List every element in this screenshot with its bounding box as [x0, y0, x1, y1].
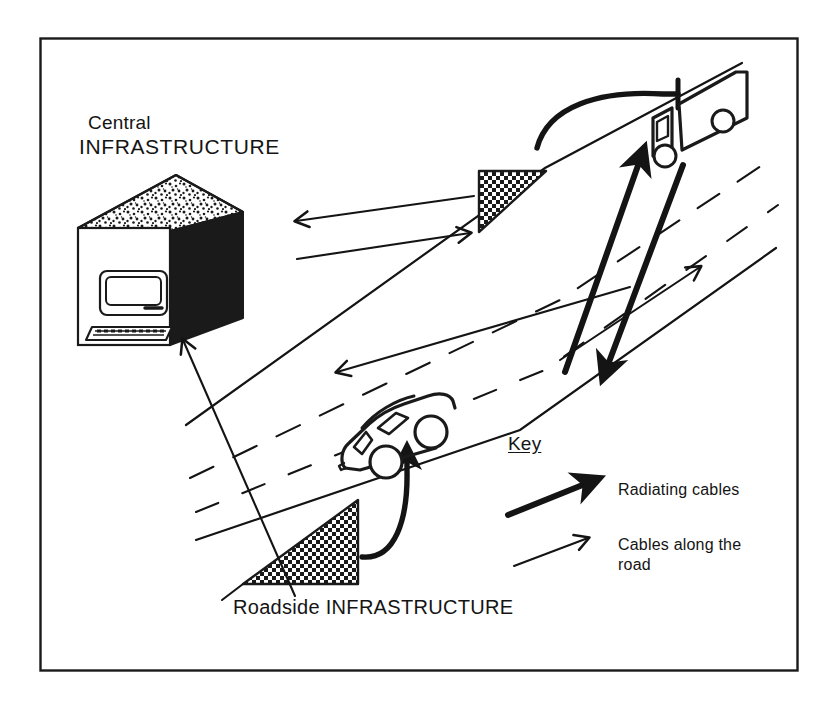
label-central-infrastructure-line1: Central	[88, 112, 151, 134]
car-rear-wheel	[415, 416, 447, 448]
lorry-front-wheel	[654, 145, 676, 167]
car-front-wheel	[370, 446, 402, 478]
key-label-radiating-cables: Radiating cables	[618, 481, 740, 499]
label-roadside-infrastructure: Roadside INFRASTRUCTURE	[233, 596, 513, 619]
lorry-rear-wheel	[712, 110, 734, 132]
key-label-cables-along-road: Cables along the road	[618, 535, 741, 575]
diagram-root: Central INFRASTRUCTURE Roadside INFRASTR…	[0, 0, 835, 708]
key-title: Key	[508, 433, 541, 455]
label-central-infrastructure-line2: INFRASTRUCTURE	[79, 135, 280, 159]
